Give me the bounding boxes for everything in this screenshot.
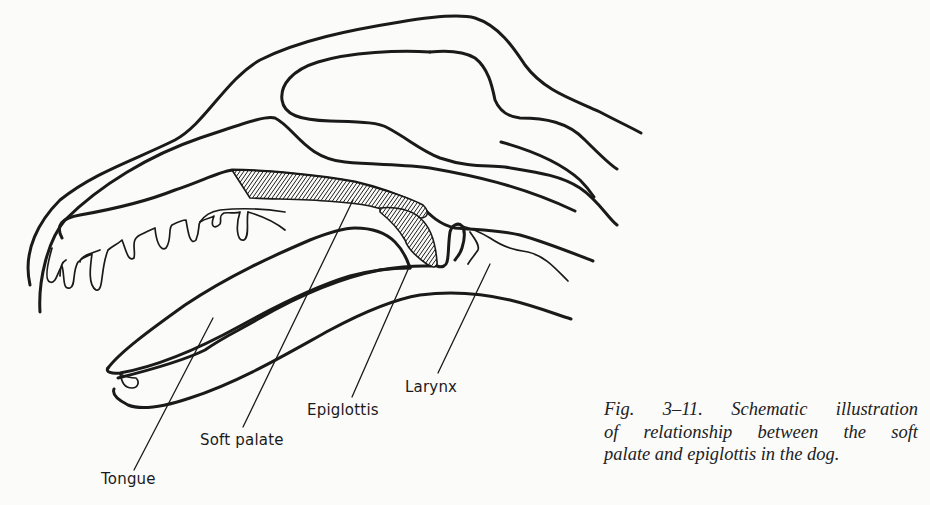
upper-jaw-teeth (47, 212, 248, 290)
leader-soft-palate (243, 200, 353, 427)
label-soft-palate: Soft palate (200, 431, 284, 449)
tongue-outline (108, 228, 410, 368)
cheek-line (248, 212, 285, 230)
gum-line (60, 250, 100, 276)
figure-caption: Fig. 3–11. Schematic illustration of rel… (604, 398, 918, 466)
leader-epiglottis (352, 265, 410, 397)
caption-line-3: palate and epiglottis in the dog. (604, 443, 918, 466)
tongue-underside (107, 268, 410, 373)
label-larynx: Larynx (405, 378, 457, 396)
nasal-cavity-loop-top (430, 51, 617, 169)
mandible-lower-line (114, 293, 571, 408)
pharynx-roof-line (420, 205, 593, 261)
label-tongue: Tongue (101, 470, 156, 488)
larynx-arytenoid (468, 232, 478, 264)
leader-larynx (438, 264, 490, 373)
larynx-outline (437, 224, 464, 267)
caption-line-1: Fig. 3–11. Schematic illustration (604, 398, 918, 421)
hard-palate-upper-line (40, 117, 575, 312)
label-epiglottis: Epiglottis (307, 401, 379, 419)
caption-line-2: of relationship between the soft (604, 421, 918, 444)
